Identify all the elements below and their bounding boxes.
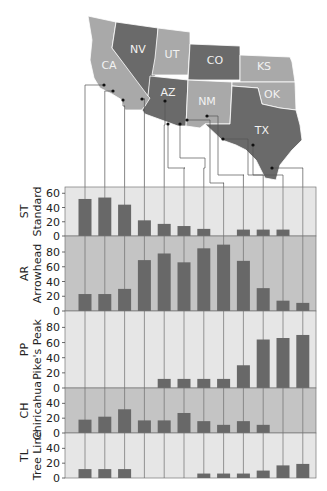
bar xyxy=(138,420,151,433)
bar xyxy=(237,365,250,388)
bar xyxy=(217,425,230,433)
bar xyxy=(296,335,309,388)
bar xyxy=(98,294,111,311)
svg-text:CH: CH xyxy=(18,403,31,419)
tick-label: 40 xyxy=(46,276,60,289)
site-dot xyxy=(221,137,224,140)
tick-label: 80 xyxy=(46,321,60,334)
bar xyxy=(79,199,92,236)
site-dot xyxy=(185,118,188,121)
bar xyxy=(98,198,111,236)
site-dot xyxy=(121,98,124,101)
state-label-ut: UT xyxy=(165,48,180,61)
bar xyxy=(197,474,210,478)
state-label-ks: KS xyxy=(257,60,271,73)
bar xyxy=(138,220,151,236)
svg-text:Pike's Peak: Pike's Peak xyxy=(31,319,44,380)
tick-label: 20 xyxy=(46,367,60,380)
bar xyxy=(98,469,111,478)
leader-line xyxy=(123,100,125,187)
state-label-az: AZ xyxy=(160,86,176,99)
bar xyxy=(197,248,210,311)
bar xyxy=(98,417,111,433)
bar xyxy=(257,425,270,433)
tick-label: 20 xyxy=(46,457,60,470)
svg-text:ST: ST xyxy=(18,204,31,218)
bar xyxy=(79,294,92,311)
svg-text:Tree Line: Tree Line xyxy=(31,431,44,482)
panel-st: 0204060STStandard xyxy=(18,186,316,243)
panel-tl: 02040TLTree Line xyxy=(18,431,316,485)
bar xyxy=(158,379,171,388)
svg-text:PP: PP xyxy=(18,343,31,357)
bar xyxy=(217,379,230,388)
bar xyxy=(197,379,210,388)
tick-label: 0 xyxy=(53,230,60,243)
site-dot xyxy=(251,143,254,146)
bar xyxy=(79,469,92,478)
bar xyxy=(118,289,131,311)
bar xyxy=(296,303,309,311)
tick-label: 0 xyxy=(53,472,60,485)
bar xyxy=(158,420,171,433)
state-label-ok: OK xyxy=(264,88,281,101)
site-dot xyxy=(111,89,114,92)
state-label-co: CO xyxy=(207,54,224,67)
tick-label: 20 xyxy=(46,290,60,303)
bar xyxy=(237,261,250,311)
bar xyxy=(178,226,191,236)
site-dot xyxy=(178,122,181,125)
bar xyxy=(118,469,131,478)
tick-label: 60 xyxy=(46,261,60,274)
svg-text:Standard: Standard xyxy=(31,186,44,236)
tick-label: 0 xyxy=(53,427,60,440)
site-dot xyxy=(166,122,169,125)
bar xyxy=(79,420,92,433)
panel-label-st: STStandard xyxy=(18,186,44,236)
bar xyxy=(257,340,270,388)
tick-label: 40 xyxy=(46,202,60,215)
tick-label: 20 xyxy=(46,216,60,229)
bar xyxy=(158,224,171,236)
site-dot xyxy=(270,166,273,169)
bar xyxy=(197,421,210,433)
leader-line xyxy=(85,85,104,187)
bar xyxy=(257,288,270,311)
panel-ch: 02040CHChiricahua xyxy=(18,381,316,440)
tick-label: 0 xyxy=(53,382,60,395)
bar xyxy=(178,379,191,388)
site-dot xyxy=(163,99,166,102)
panel-ar: 020406080ARArrowhead xyxy=(18,236,316,318)
tick-label: 40 xyxy=(46,442,60,455)
panel-label-tl: TLTree Line xyxy=(18,431,44,482)
bar xyxy=(257,230,270,236)
bar xyxy=(237,230,250,236)
panel-pp: 020406080PPPike's Peak xyxy=(18,311,316,395)
tick-label: 40 xyxy=(46,352,60,365)
bar xyxy=(237,421,250,433)
state-label-nv: NV xyxy=(130,43,146,56)
svg-text:TL: TL xyxy=(18,448,31,463)
bar xyxy=(277,465,290,478)
svg-text:AR: AR xyxy=(18,266,31,282)
chart-figure: CANVUTCOKSAZNMOKTX 0204060STStandard0204… xyxy=(0,0,327,491)
site-dot xyxy=(102,83,105,86)
bar xyxy=(277,230,290,236)
bar xyxy=(277,301,290,311)
tick-label: 40 xyxy=(46,397,60,410)
tick-label: 60 xyxy=(46,187,60,200)
bar xyxy=(217,245,230,311)
state-label-ca: CA xyxy=(101,59,117,72)
tick-label: 20 xyxy=(46,412,60,425)
bar xyxy=(118,409,131,433)
tick-label: 80 xyxy=(46,246,60,259)
bar xyxy=(178,413,191,433)
bar-panels: 0204060STStandard020406080ARArrowhead020… xyxy=(18,186,316,485)
bar xyxy=(257,471,270,478)
tick-label: 0 xyxy=(53,305,60,318)
bar xyxy=(296,464,309,478)
tick-label: 60 xyxy=(46,337,60,350)
svg-text:Arrowhead: Arrowhead xyxy=(31,244,44,303)
bar xyxy=(118,205,131,236)
bar xyxy=(158,253,171,311)
